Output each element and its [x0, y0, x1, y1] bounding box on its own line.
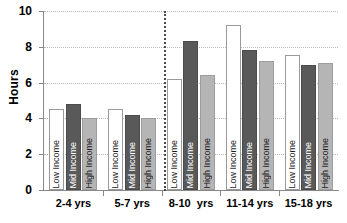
x-category-label: 5-7 yrs — [103, 197, 162, 209]
bar-high-income: High Income — [318, 63, 333, 190]
bar-mid-income: Mid Income — [183, 41, 198, 190]
bar-series-label: Low Income — [52, 138, 61, 189]
y-tick-label-8: 8 — [8, 41, 32, 53]
bar-series-label: Mid Income — [304, 140, 313, 189]
x-category-label: 8-10 yrs — [162, 197, 221, 209]
x-axis-line — [43, 190, 339, 191]
bar-chart: Hours 0246810 Low IncomeMid IncomeHigh I… — [0, 0, 347, 223]
x-group-tick — [220, 190, 221, 196]
y-tick-label-10: 10 — [8, 5, 32, 17]
bar-series-label: Low Income — [229, 138, 238, 189]
bar-series-label: High Income — [144, 136, 153, 189]
bar-series-label: Low Income — [288, 138, 297, 189]
x-group-tick — [103, 190, 104, 196]
y-tick-label-0: 0 — [8, 184, 32, 196]
bar-group: Low IncomeMid IncomeHigh Income — [44, 11, 103, 190]
bar-high-income: High Income — [141, 118, 156, 190]
bar-series-label: Low Income — [111, 138, 120, 189]
bar-mid-income: Mid Income — [66, 104, 81, 190]
bar-high-income: High Income — [259, 61, 274, 190]
bar-group: Low IncomeMid IncomeHigh Income — [103, 11, 162, 190]
bar-series-label: High Income — [262, 136, 271, 189]
vertical-dotted-divider — [164, 11, 166, 191]
x-group-tick — [162, 190, 163, 196]
bar-mid-income: Mid Income — [301, 65, 316, 190]
bar-mid-income: Mid Income — [242, 50, 257, 190]
bar-low-income: Low Income — [108, 109, 123, 190]
bar-series-label: High Income — [203, 136, 212, 189]
bar-series-label: Mid Income — [69, 140, 78, 189]
y-tick-label-2: 2 — [8, 148, 32, 160]
y-tick-label-6: 6 — [8, 77, 32, 89]
y-tick-mark-0 — [39, 190, 44, 191]
bar-group: Low IncomeMid IncomeHigh Income — [162, 11, 221, 190]
bar-mid-income: Mid Income — [125, 115, 140, 190]
bar-high-income: High Income — [82, 118, 97, 190]
bar-group: Low IncomeMid IncomeHigh Income — [279, 11, 338, 190]
bar-series-label: High Income — [85, 136, 94, 189]
bar-low-income: Low Income — [167, 79, 182, 190]
bar-high-income: High Income — [200, 75, 215, 190]
bar-series-label: Mid Income — [245, 140, 254, 189]
plot-area: Low IncomeMid IncomeHigh IncomeLow Incom… — [44, 11, 338, 190]
x-group-tick — [279, 190, 280, 196]
y-tick-label-4: 4 — [8, 112, 32, 124]
x-category-label: 2-4 yrs — [44, 197, 103, 209]
x-category-label: 11-14 yrs — [220, 197, 279, 209]
bar-group: Low IncomeMid IncomeHigh Income — [220, 11, 279, 190]
bar-low-income: Low Income — [49, 109, 64, 190]
bar-series-label: Mid Income — [128, 140, 137, 189]
bar-low-income: Low Income — [226, 25, 241, 190]
x-category-label: 15-18 yrs — [279, 197, 338, 209]
bar-series-label: High Income — [321, 136, 330, 189]
bar-series-label: Low Income — [170, 138, 179, 189]
bar-low-income: Low Income — [285, 55, 300, 190]
bar-series-label: Mid Income — [186, 140, 195, 189]
